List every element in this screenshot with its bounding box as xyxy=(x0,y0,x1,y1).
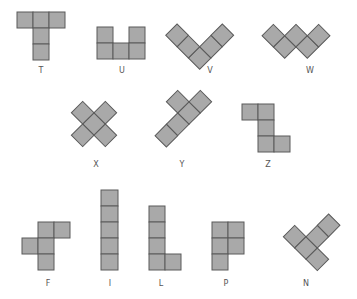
pentomino-x xyxy=(60,90,128,158)
pentomino-z xyxy=(242,104,290,152)
label-i: I xyxy=(109,279,111,288)
label-u: U xyxy=(119,66,125,75)
label-p: P xyxy=(224,279,229,288)
label-w: W xyxy=(306,66,314,75)
label-n: N xyxy=(303,279,309,288)
pentomino-diagram: .c { fill:#a9a9a9; stroke:#5a5a5a; strok… xyxy=(0,0,357,299)
label-t: T xyxy=(39,66,44,75)
pentomino-y xyxy=(144,79,212,147)
pentomino-p xyxy=(212,222,244,270)
pentomino-u xyxy=(97,27,145,59)
pentomino-n xyxy=(283,203,351,271)
label-v: V xyxy=(207,66,212,75)
label-f: F xyxy=(46,279,51,288)
pentomino-w xyxy=(262,2,330,70)
pentomino-t xyxy=(17,12,65,60)
label-z: Z xyxy=(265,160,270,169)
pentomino-f xyxy=(22,222,70,270)
pentomino-i xyxy=(101,190,118,270)
pentomino-l xyxy=(149,206,181,270)
label-y: Y xyxy=(180,160,185,169)
pentomino-v xyxy=(166,1,234,69)
label-x: X xyxy=(93,160,98,169)
label-l: L xyxy=(159,279,163,288)
